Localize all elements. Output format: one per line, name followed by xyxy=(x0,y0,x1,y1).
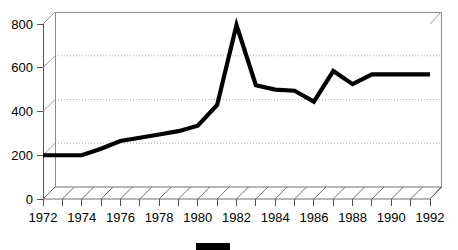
y-axis-tick-label: 200 xyxy=(11,148,33,163)
y-axis-tick-label: 800 xyxy=(11,17,33,32)
line-chart: 0200400600800 19721974197619781980198219… xyxy=(0,0,458,250)
x-axis-tick-label: 1992 xyxy=(416,210,445,225)
x-axis-tick-label: 1972 xyxy=(29,210,58,225)
y-axis-tick-label: 600 xyxy=(11,60,33,75)
x-axis-tick-label: 1990 xyxy=(377,210,406,225)
y-axis-ticks xyxy=(37,24,55,199)
depth-edge-top-left xyxy=(43,12,55,24)
x-axis-tick-label: 1980 xyxy=(183,210,212,225)
y-axis-tick-label: 400 xyxy=(11,104,33,119)
y-tick-depth-edge xyxy=(43,56,55,68)
x-axis-labels: 1972197419761978198019821984198619881990… xyxy=(29,210,445,225)
x-axis-tick-label: 1988 xyxy=(338,210,367,225)
x-axis-tick-label: 1976 xyxy=(106,210,135,225)
legend-color-swatch xyxy=(196,243,230,250)
x-axis-tick-label: 1978 xyxy=(145,210,174,225)
x-axis-tick-label: 1984 xyxy=(261,210,290,225)
x-axis-tick-label: 1986 xyxy=(299,210,328,225)
chart-legend xyxy=(196,243,230,250)
y-tick-depth-edge xyxy=(43,100,55,112)
chart-container: 0200400600800 19721974197619781980198219… xyxy=(0,0,458,250)
x-axis-tick-label: 1982 xyxy=(222,210,251,225)
y-axis-tick-label: 0 xyxy=(26,192,33,207)
x-axis-tick-label: 1974 xyxy=(67,210,96,225)
x-axis-ticks xyxy=(43,199,430,206)
y-axis-labels: 0200400600800 xyxy=(11,17,33,207)
